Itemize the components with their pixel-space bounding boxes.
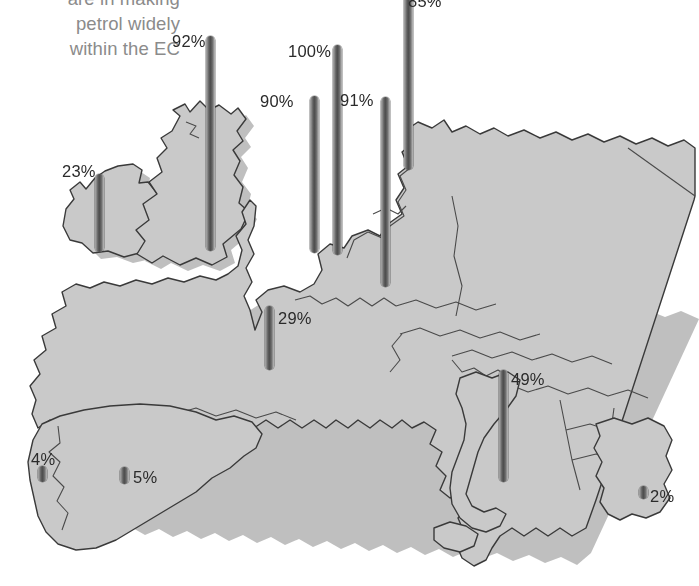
bar-belgium	[381, 97, 390, 287]
caption-line-3: within the EC	[0, 36, 180, 61]
bar-label-denmark: 100%	[288, 43, 331, 60]
bar-label-germany: 85%	[408, 0, 442, 10]
bar-label-portugal: 4%	[31, 451, 55, 468]
bar-label-netherlands: 90%	[260, 93, 294, 110]
bar-ireland	[95, 174, 104, 252]
bar-label-italy: 49%	[511, 371, 545, 388]
europe-map	[0, 0, 699, 586]
bar-label-united-kingdom: 92%	[172, 33, 206, 50]
bar-label-greece: 2%	[650, 488, 674, 505]
bar-netherlands	[310, 96, 319, 253]
bar-label-ireland: 23%	[62, 163, 96, 180]
bar-greece	[639, 486, 648, 499]
figure-caption: are in making petrol widely within the E…	[0, 0, 180, 61]
bar-portugal	[38, 466, 47, 482]
bar-italy	[499, 370, 508, 482]
bar-label-france: 29%	[278, 310, 312, 327]
bar-label-belgium: 91%	[340, 92, 374, 109]
bar-france	[265, 306, 274, 370]
caption-line-2: petrol widely	[0, 11, 180, 36]
bar-germany	[404, 0, 413, 170]
bar-denmark	[333, 45, 342, 255]
bar-united-kingdom	[206, 36, 215, 251]
chart-figure: are in making petrol widely within the E…	[0, 0, 699, 586]
bar-label-spain: 5%	[133, 469, 157, 486]
bar-spain	[120, 467, 129, 484]
caption-line-1: are in making	[0, 0, 180, 11]
